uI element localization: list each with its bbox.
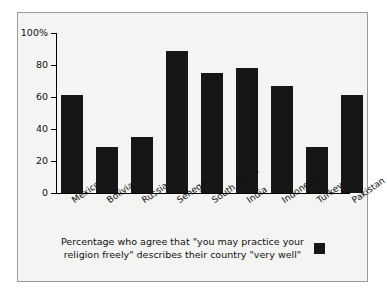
y-tick-mark <box>51 193 57 194</box>
bar <box>131 137 153 193</box>
bar <box>271 86 293 193</box>
y-tick-label: 60 <box>36 90 48 103</box>
bar <box>166 51 188 193</box>
y-tick-label: 80 <box>36 58 48 71</box>
y-tick-mark <box>51 129 57 130</box>
x-axis-line <box>56 193 350 194</box>
y-axis-line <box>56 33 57 194</box>
chart-legend: Percentage who agree that "you may pract… <box>40 235 346 261</box>
legend-label: Percentage who agree that "you may pract… <box>61 235 304 261</box>
chart-figure: 020406080100% MexicoBoliviaRussiaSenegal… <box>17 12 368 282</box>
y-tick-mark <box>51 161 57 162</box>
y-tick-mark <box>51 33 57 34</box>
y-tick-label: 100% <box>21 26 48 39</box>
legend-color-swatch <box>314 243 325 254</box>
y-tick-label: 20 <box>36 154 48 167</box>
bar <box>61 95 83 193</box>
bar <box>341 95 363 193</box>
plot-area: 020406080100% MexicoBoliviaRussiaSenegal… <box>56 33 350 193</box>
y-tick-label: 40 <box>36 122 48 135</box>
y-tick-mark <box>51 65 57 66</box>
y-tick-label: 0 <box>42 186 48 199</box>
y-tick-mark <box>51 97 57 98</box>
